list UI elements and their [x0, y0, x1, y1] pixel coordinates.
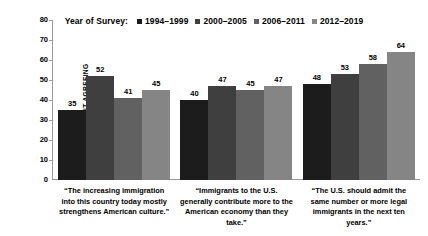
y-tick-label: 20 — [40, 136, 48, 144]
bar: 45 — [142, 90, 170, 180]
bar: 41 — [114, 98, 142, 180]
bar-groups: 355241454047454748535864 — [53, 20, 420, 180]
category-caption: “The U.S. should admit the same number o… — [298, 186, 420, 234]
bar: 45 — [236, 90, 264, 180]
bar: 53 — [331, 74, 359, 180]
bar: 35 — [58, 110, 86, 180]
y-tick-label: 40 — [40, 96, 48, 104]
y-tick-label: 10 — [40, 156, 48, 164]
y-tick-mark — [49, 100, 52, 101]
bar-value-label: 52 — [86, 66, 114, 74]
bar: 58 — [359, 64, 387, 180]
y-tick-mark — [49, 20, 52, 21]
bar: 52 — [86, 76, 114, 180]
bar-value-label: 41 — [114, 88, 142, 96]
category-caption: “Immigrants to the U.S. generally contri… — [175, 186, 297, 234]
bar: 47 — [208, 86, 236, 180]
bar-value-label: 53 — [331, 64, 359, 72]
bar: 64 — [387, 52, 415, 180]
y-tick-mark — [49, 120, 52, 121]
bar-group: 40474547 — [175, 20, 297, 180]
bar-value-label: 48 — [303, 74, 331, 82]
y-tick-label: 0 — [44, 176, 48, 184]
bar: 47 — [264, 86, 292, 180]
bar-value-label: 45 — [236, 80, 264, 88]
bar-value-label: 47 — [208, 76, 236, 84]
bar-value-label: 45 — [142, 80, 170, 88]
y-tick-label: 30 — [40, 116, 48, 124]
y-tick-mark — [49, 160, 52, 161]
y-tick-label: 50 — [40, 76, 48, 84]
bar-chart-figure: Year of Survey: 1994–1999 2000–2005 2006… — [0, 0, 428, 236]
category-captions: “The increasing immigration into this co… — [53, 186, 420, 234]
bar-value-label: 47 — [264, 76, 292, 84]
bar-value-label: 58 — [359, 54, 387, 62]
bar-value-label: 35 — [58, 100, 86, 108]
category-caption: “The increasing immigration into this co… — [53, 186, 175, 234]
y-tick-mark — [49, 140, 52, 141]
y-tick-mark — [49, 60, 52, 61]
y-tick-mark — [49, 80, 52, 81]
bar-group: 48535864 — [298, 20, 420, 180]
y-tick-label: 60 — [40, 56, 48, 64]
bar: 48 — [303, 84, 331, 180]
bar-value-label: 40 — [180, 90, 208, 98]
y-tick-label: 80 — [40, 16, 48, 24]
y-tick-label: 70 — [40, 36, 48, 44]
y-tick-mark — [49, 40, 52, 41]
bar: 40 — [180, 100, 208, 180]
plot-area: 80706050403020100 3552414540474547485358… — [52, 20, 420, 180]
bar-value-label: 64 — [387, 42, 415, 50]
bar-group: 35524145 — [53, 20, 175, 180]
